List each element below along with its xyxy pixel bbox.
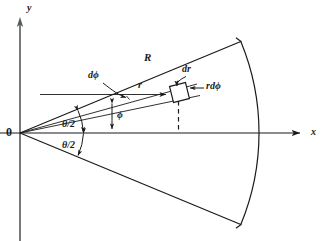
- figure-canvas: y x 0 R r dr dϕ rdϕ ϕ θ/2 θ/2: [0, 0, 324, 241]
- y-axis-label: y: [27, 3, 31, 13]
- dphi-wedge-tick: [127, 96, 130, 100]
- half-angle-lower-label: θ/2: [62, 140, 75, 150]
- radius-r-label: r: [138, 80, 142, 90]
- half-angle-upper-label: θ/2: [62, 119, 75, 129]
- differential-r-label: dr: [182, 64, 191, 74]
- theta-half-lower-arc: [78, 134, 84, 156]
- area-element-rect: [170, 83, 190, 103]
- arc-element-label: rdϕ: [206, 81, 221, 91]
- diagram-svg: [0, 0, 324, 241]
- origin-label: 0: [6, 126, 12, 138]
- differential-phi-label: dϕ: [88, 70, 99, 80]
- radius-R-label: R: [144, 52, 151, 63]
- x-axis-label: x: [311, 127, 316, 137]
- sector-lower-edge: [20, 133, 241, 225]
- angle-phi-label: ϕ: [117, 110, 123, 120]
- theta-half-upper-arc: [78, 111, 84, 133]
